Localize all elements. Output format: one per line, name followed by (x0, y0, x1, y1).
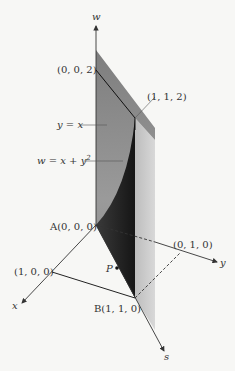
label-P: P (105, 263, 113, 274)
w-axis-label: w (92, 11, 101, 22)
label-100: (1, 0, 0) (14, 266, 54, 277)
label-010: (0, 1, 0) (173, 239, 213, 250)
label-B: B(1, 1, 0) (94, 303, 141, 314)
point-p (115, 266, 119, 270)
x-axis (22, 225, 96, 303)
label-surface: w = x + y2 (37, 154, 91, 166)
light-plane (135, 118, 155, 330)
label-002: (0, 0, 2) (57, 64, 97, 75)
edge-100-B (52, 272, 135, 298)
label-y-equals-x: y = x (56, 119, 83, 130)
s-axis-label: s (164, 351, 169, 362)
label-A: A(0, 0, 0) (49, 221, 97, 232)
x-axis-label: x (12, 300, 18, 311)
3d-region-diagram: w x y s (0, 0, 2) (1, 1, 2) y = x w = x … (0, 0, 235, 371)
label-112: (1, 1, 2) (147, 91, 187, 102)
y-axis-label: y (219, 257, 226, 268)
